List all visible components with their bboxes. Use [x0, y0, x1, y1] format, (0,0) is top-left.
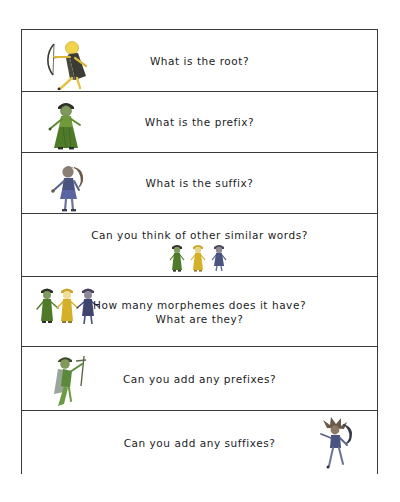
card-question-text: How many morphemes does it have? What ar… [22, 298, 377, 326]
card-question-text: What is the prefix? [22, 115, 377, 129]
table-row[interactable]: How many morphemes does it have? What ar… [22, 277, 377, 347]
card-question-text: Can you think of other similar words? [22, 228, 377, 242]
table-row[interactable]: What is the prefix? [22, 92, 377, 153]
table-row[interactable]: What is the root? [22, 30, 377, 92]
table-row[interactable]: Can you think of other similar words? [22, 214, 377, 277]
table-row[interactable]: Can you add any suffixes? [22, 411, 377, 475]
table-row[interactable]: What is the suffix? [22, 153, 377, 214]
card-question-text: What is the root? [22, 54, 377, 68]
navy-spiky-figure-icon [313, 416, 361, 472]
card-question-text: Can you add any prefixes? [22, 372, 377, 386]
table-row[interactable]: Can you add any prefixes? [22, 347, 377, 411]
three-figures-group-icon [169, 244, 231, 274]
card-question-text: What is the suffix? [22, 176, 377, 190]
prompt-cards-table: What is the root? [21, 29, 378, 474]
